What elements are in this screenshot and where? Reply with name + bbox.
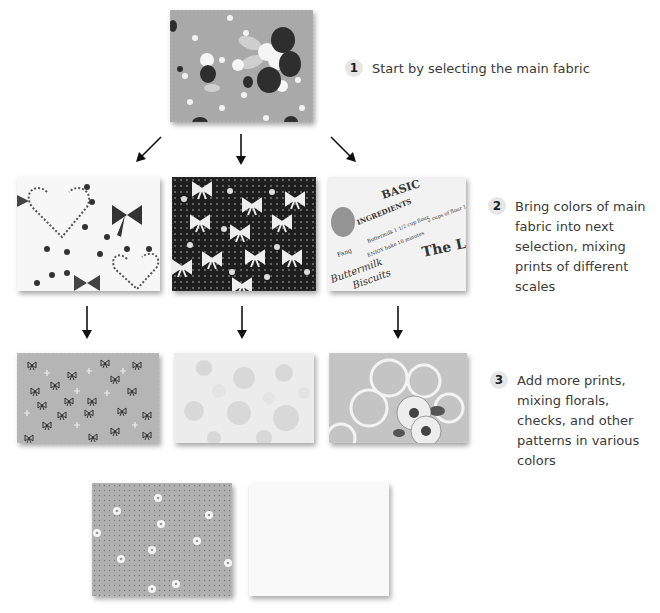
swatch-bows-black: [172, 177, 316, 291]
step-2-text: Bring colors of main fabric into next se…: [515, 197, 653, 297]
arrow-down-right-icon: [326, 132, 360, 166]
step-3: 3 Add more prints, mixing florals, check…: [490, 371, 655, 471]
arrow-down-icon: [80, 304, 94, 340]
arrow-down-left-icon: [132, 132, 166, 166]
newsprint-pattern: BASIC INGREDIENTS The Lar Buttermilk Bis…: [328, 177, 466, 291]
arrow-down-icon: [235, 304, 249, 340]
swatch-hearts-bows: [17, 177, 160, 291]
hearts-bows-pattern: [17, 177, 160, 291]
pin-dot-daisies-pattern: [92, 483, 232, 596]
bows-black-pattern: [172, 177, 316, 291]
large-floral-pattern: [329, 353, 467, 443]
svg-text:BASIC: BASIC: [380, 177, 422, 202]
pale-daisies-pattern: [174, 353, 314, 443]
step-1: 1 Start by selecting the main fabric: [345, 59, 645, 79]
step-1-text: Start by selecting the main fabric: [372, 59, 590, 79]
swatch-large-floral: [329, 353, 467, 443]
main-fabric-swatch: [170, 10, 313, 122]
step-2: 2 Bring colors of main fabric into next …: [488, 197, 653, 297]
swatch-pin-dot-daisies: [92, 483, 232, 596]
svg-text:The Lar: The Lar: [420, 232, 466, 260]
arrow-down-icon: [234, 132, 248, 166]
swatch-solid-white: [249, 483, 389, 596]
step-3-text: Add more prints, mixing florals, checks,…: [517, 371, 655, 471]
step-3-badge: 3: [490, 371, 508, 389]
step-2-badge: 2: [488, 197, 506, 215]
swatch-tiny-bows: [17, 353, 159, 443]
svg-text:2 cups of flour 1: 2 cups of flour 1: [426, 203, 466, 224]
tiny-bows-pattern: [17, 353, 159, 443]
strawberry-pattern: [170, 10, 313, 122]
svg-text:ENIOY bake 10 minutes: ENIOY bake 10 minutes: [366, 229, 425, 258]
swatch-pale-daisies: [174, 353, 314, 443]
swatch-newsprint: BASIC INGREDIENTS The Lar Buttermilk Bis…: [328, 177, 466, 291]
step-1-badge: 1: [345, 59, 363, 77]
arrow-down-icon: [391, 304, 405, 340]
svg-text:Fang: Fang: [336, 246, 353, 259]
